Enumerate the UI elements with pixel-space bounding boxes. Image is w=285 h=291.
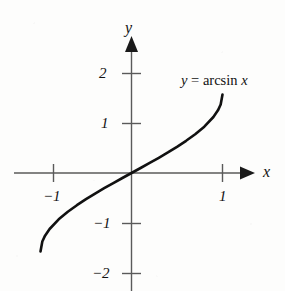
equation-x-term: x xyxy=(241,72,247,88)
plot-canvas xyxy=(0,0,285,291)
y-axis-label: y xyxy=(125,20,132,36)
x-tick-label-minus1: −1 xyxy=(43,189,61,204)
y-tick-label-2: 2 xyxy=(99,66,107,81)
y-axis-arrowhead xyxy=(125,36,138,52)
x-axis-arrowhead xyxy=(240,167,255,180)
equation-annotation: y = arcsin x xyxy=(181,73,248,88)
arcsin-graph-figure: 2 1 −1 −2 −1 1 y x y = arcsin x xyxy=(0,0,285,291)
x-axis-label: x xyxy=(263,164,270,180)
equation-function-name: arcsin xyxy=(203,72,238,88)
y-tick-label-1: 1 xyxy=(101,116,109,131)
y-tick-label-minus1: −1 xyxy=(93,216,111,231)
x-tick-label-1: 1 xyxy=(219,189,227,204)
y-tick-label-minus2: −2 xyxy=(92,266,110,281)
